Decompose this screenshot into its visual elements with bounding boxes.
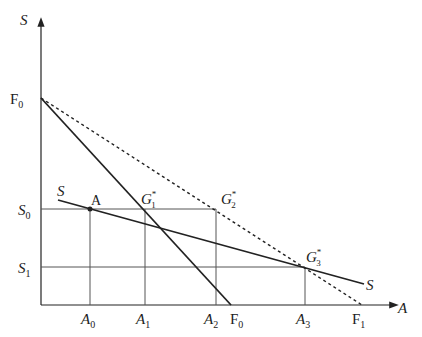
point-a-label: A — [91, 193, 102, 208]
x-tick-f0: F0 — [230, 311, 243, 330]
s-curve — [58, 200, 364, 284]
diagram-canvas: S A F0 S0 S1 A0 A1 A2 F0 A3 F1 A G*1 G*2… — [0, 0, 422, 337]
x-tick-a3: A3 — [295, 311, 310, 330]
x-axis-label: A — [397, 300, 408, 316]
point-g3-label: G*3 — [306, 247, 322, 268]
y-tick-s0: S0 — [18, 202, 31, 221]
point-g1-label: G*1 — [141, 189, 157, 210]
x-tick-a2: A2 — [203, 311, 218, 330]
f0-line — [41, 98, 231, 305]
y-axis-label: S — [20, 12, 28, 28]
s-curve-label-right: S — [366, 277, 374, 293]
point-g2-label: G*2 — [221, 189, 237, 210]
y-tick-f0: F0 — [10, 91, 23, 110]
x-tick-a1: A1 — [135, 311, 150, 330]
x-tick-a0: A0 — [80, 311, 95, 330]
y-tick-s1: S1 — [18, 260, 31, 279]
x-tick-f1: F1 — [352, 311, 365, 330]
s-curve-label-left: S — [57, 183, 65, 199]
